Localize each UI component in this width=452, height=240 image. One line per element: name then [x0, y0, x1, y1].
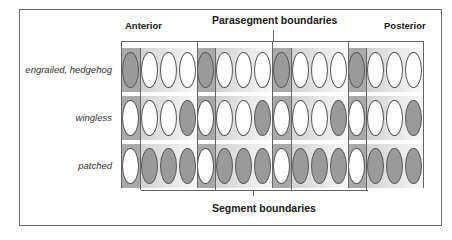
cell-expressing	[179, 100, 196, 136]
segment-boundary-line	[291, 48, 292, 190]
cell-expressing	[311, 148, 328, 184]
cell-empty	[330, 52, 347, 88]
cell-expressing	[330, 148, 347, 184]
parasegment-boundary-line	[348, 41, 349, 188]
row-label-engrailed: engrailed, hedgehog	[12, 64, 112, 75]
cell-empty	[160, 100, 177, 136]
parasegment-bracket	[121, 41, 423, 42]
cell-expressing	[273, 52, 290, 88]
cell-empty	[273, 148, 290, 184]
cell-expressing	[405, 148, 422, 184]
anterior-label: Anterior	[125, 20, 162, 31]
segment-tick	[253, 190, 254, 196]
segment-bracket	[141, 190, 368, 191]
cell-empty	[254, 52, 271, 88]
segment-boundaries-label: Segment boundaries	[212, 202, 316, 214]
cell-empty	[311, 100, 328, 136]
cell-expressing	[330, 100, 347, 136]
segment-boundary-line	[140, 48, 141, 190]
cell-empty	[292, 100, 309, 136]
segment-boundary-line	[215, 48, 216, 190]
cell-expressing	[254, 100, 271, 136]
cell-empty	[311, 52, 328, 88]
parasegment-tick	[273, 30, 274, 42]
cell-expressing	[254, 148, 271, 184]
cell-empty	[141, 100, 158, 136]
cell-expressing	[292, 148, 309, 184]
cell-expressing	[160, 148, 177, 184]
parasegment-boundary-line	[423, 41, 424, 188]
parasegment-boundary-line	[272, 41, 273, 188]
cell-expressing	[179, 148, 196, 184]
segment-boundary-line	[366, 48, 367, 190]
posterior-label: Posterior	[384, 20, 426, 31]
cell-empty	[179, 52, 196, 88]
cell-expressing	[405, 100, 422, 136]
cell-empty	[292, 52, 309, 88]
row-label-patched: patched	[12, 160, 112, 171]
parasegment-boundary-line	[121, 41, 122, 188]
cell-empty	[405, 52, 422, 88]
parasegment-boundaries-label: Parasegment boundaries	[212, 14, 337, 26]
cell-empty	[273, 100, 290, 136]
parasegment-boundary-line	[197, 41, 198, 188]
cell-empty	[160, 52, 177, 88]
row-label-wingless: wingless	[12, 112, 112, 123]
cell-expressing	[122, 52, 139, 88]
cell-expressing	[141, 148, 158, 184]
cell-empty	[122, 100, 139, 136]
cell-empty	[122, 148, 139, 184]
cell-empty	[141, 52, 158, 88]
